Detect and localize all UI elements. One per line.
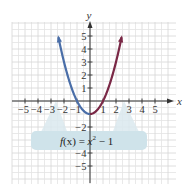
- svg-text:−4: −4: [75, 148, 87, 159]
- svg-text:−5: −5: [18, 104, 29, 115]
- svg-text:2: 2: [113, 104, 118, 115]
- function-rest: − 1: [96, 135, 113, 147]
- function-label: f(x) = x2 − 1: [60, 134, 113, 147]
- svg-text:3: 3: [126, 104, 131, 115]
- svg-text:−5: −5: [75, 161, 86, 172]
- function-graph: −5−4−3−2−112345−5−4−212345 x y: [0, 0, 187, 193]
- svg-text:−4: −4: [31, 104, 43, 115]
- svg-text:2: 2: [81, 70, 86, 81]
- svg-text:5: 5: [81, 31, 86, 42]
- svg-text:3: 3: [81, 57, 86, 68]
- y-axis-arrow-icon: [88, 21, 93, 28]
- svg-text:1: 1: [81, 83, 86, 94]
- svg-text:−3: −3: [44, 104, 55, 115]
- grid: [12, 22, 176, 184]
- svg-text:−2: −2: [75, 122, 86, 133]
- svg-text:4: 4: [81, 44, 87, 55]
- function-arg: (x) =: [63, 135, 88, 147]
- y-axis-label: y: [86, 9, 92, 21]
- svg-text:5: 5: [152, 104, 157, 115]
- x-axis-arrow-icon: [167, 99, 174, 104]
- svg-text:−2: −2: [57, 104, 68, 115]
- x-axis-label: x: [176, 95, 182, 107]
- svg-text:4: 4: [139, 104, 145, 115]
